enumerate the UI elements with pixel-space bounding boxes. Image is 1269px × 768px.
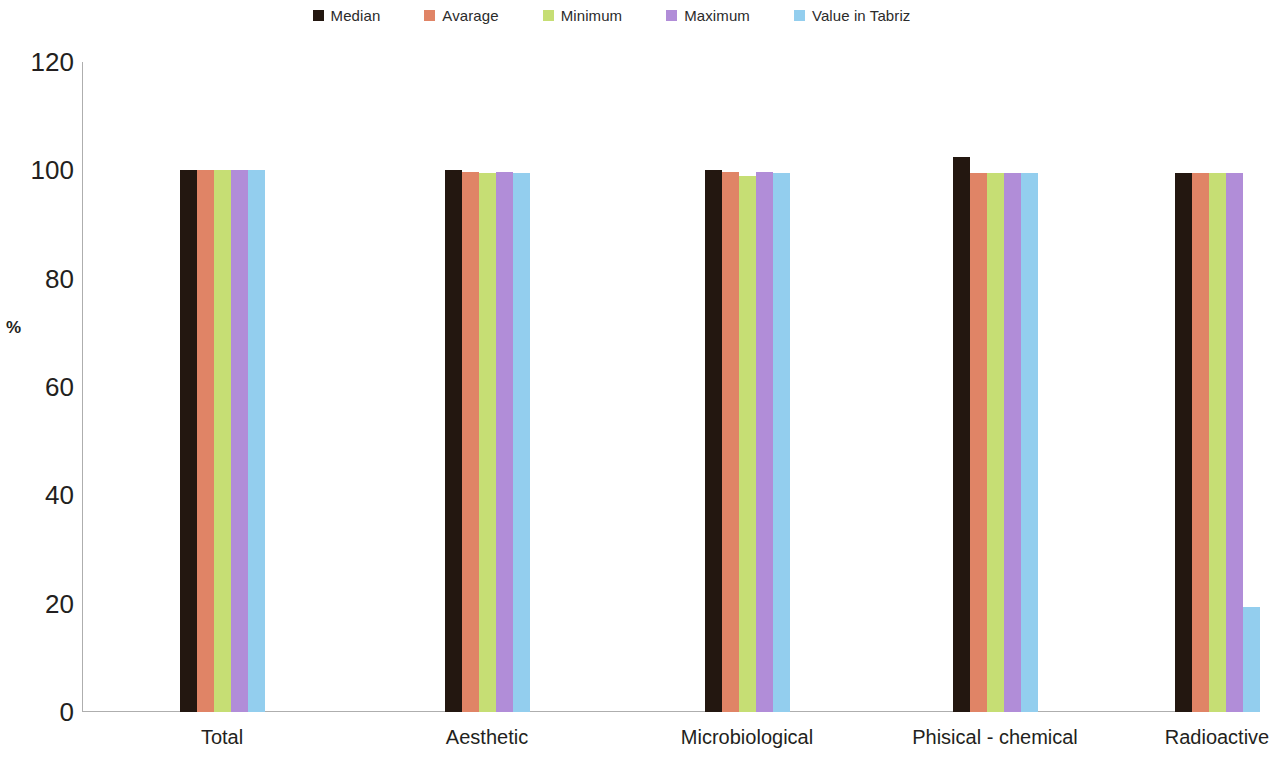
bar-0-2[interactable] xyxy=(214,170,231,712)
x-axis-tick-labels: TotalAestheticMicrobiologicalPhisical - … xyxy=(83,726,1213,766)
bar-4-1[interactable] xyxy=(1192,173,1209,712)
bar-1-4[interactable] xyxy=(513,173,530,713)
chart-legend: MedianAvarageMinimumMaximumValue in Tabr… xyxy=(0,0,1223,30)
legend-item-label: Minimum xyxy=(561,7,623,24)
bar-group-0 xyxy=(180,62,265,712)
legend-item-2[interactable]: Minimum xyxy=(543,7,623,24)
bar-3-4[interactable] xyxy=(1021,173,1038,712)
bar-3-1[interactable] xyxy=(970,173,987,713)
bar-group-3 xyxy=(953,62,1038,712)
legend-item-3[interactable]: Maximum xyxy=(666,7,750,24)
y-axis-tick-120: 120 xyxy=(0,49,74,75)
bar-1-3[interactable] xyxy=(496,172,513,712)
bar-group-1 xyxy=(445,62,530,712)
bar-4-4[interactable] xyxy=(1243,607,1260,712)
bar-group-4 xyxy=(1175,62,1260,712)
y-axis-tick-0: 0 xyxy=(0,699,74,725)
bar-0-4[interactable] xyxy=(248,170,265,712)
legend-item-label: Avarage xyxy=(442,7,498,24)
bar-2-1[interactable] xyxy=(722,172,739,712)
legend-item-1[interactable]: Avarage xyxy=(424,7,498,24)
y-axis-tick-80: 80 xyxy=(0,266,74,292)
legend-item-label: Maximum xyxy=(684,7,750,24)
y-axis-tick-100: 100 xyxy=(0,157,74,183)
x-axis-tick-2: Microbiological xyxy=(681,726,813,749)
legend-item-0[interactable]: Median xyxy=(313,7,381,24)
y-axis-title: % xyxy=(6,318,21,338)
legend-item-4[interactable]: Value in Tabriz xyxy=(794,7,911,24)
bar-3-2[interactable] xyxy=(987,173,1004,712)
bars-layer xyxy=(83,62,1213,712)
bar-4-0[interactable] xyxy=(1175,173,1192,712)
bar-2-0[interactable] xyxy=(705,170,722,712)
y-axis-tick-labels: 120100806040200 xyxy=(0,62,74,712)
legend-swatch-icon xyxy=(424,10,435,21)
bar-4-2[interactable] xyxy=(1209,173,1226,712)
bar-2-3[interactable] xyxy=(756,172,773,712)
bar-1-0[interactable] xyxy=(445,170,462,712)
bar-3-3[interactable] xyxy=(1004,173,1021,713)
legend-swatch-icon xyxy=(313,10,324,21)
x-axis-tick-4: Radioactive xyxy=(1165,726,1269,749)
legend-swatch-icon xyxy=(543,10,554,21)
bar-2-2[interactable] xyxy=(739,176,756,712)
bar-1-2[interactable] xyxy=(479,173,496,713)
bar-2-4[interactable] xyxy=(773,173,790,713)
bar-0-1[interactable] xyxy=(197,170,214,712)
legend-swatch-icon xyxy=(666,10,677,21)
bar-1-1[interactable] xyxy=(462,172,479,712)
y-axis-tick-40: 40 xyxy=(0,482,74,508)
bar-4-3[interactable] xyxy=(1226,173,1243,712)
x-axis-tick-1: Aesthetic xyxy=(446,726,528,749)
y-axis-tick-20: 20 xyxy=(0,591,74,617)
bar-0-0[interactable] xyxy=(180,170,197,712)
legend-swatch-icon xyxy=(794,10,805,21)
bar-0-3[interactable] xyxy=(231,170,248,712)
x-axis-tick-0: Total xyxy=(201,726,243,749)
y-axis-tick-60: 60 xyxy=(0,374,74,400)
legend-item-label: Median xyxy=(331,7,381,24)
bar-3-0[interactable] xyxy=(953,157,970,712)
bar-group-2 xyxy=(705,62,790,712)
x-axis-tick-3: Phisical - chemical xyxy=(912,726,1078,749)
legend-item-label: Value in Tabriz xyxy=(812,7,911,24)
